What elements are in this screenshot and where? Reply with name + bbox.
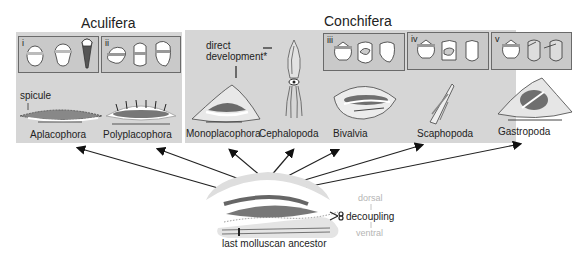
taxon-label-scaphopoda: Scaphopoda	[417, 128, 473, 139]
decoupling-label: decoupling	[346, 211, 394, 222]
larva-icons-stage-iv	[417, 40, 478, 61]
aplacophora-drawing	[20, 103, 102, 122]
taxon-label-cephalopoda: Cephalopoda	[259, 128, 319, 139]
cephalopoda-drawing	[286, 40, 302, 118]
direct-development-line-1: direct	[206, 40, 267, 51]
taxon-label-aplacophora: Aplacophora	[30, 129, 86, 140]
gastropoda-drawing	[498, 78, 572, 120]
ancestor-drawing	[206, 172, 338, 238]
larva-icons-stage-iii	[334, 42, 395, 63]
scissors-icon	[330, 212, 343, 220]
spicule-label: spicule	[20, 90, 51, 101]
polyplacophora-drawing	[106, 100, 176, 124]
dorsal-label: dorsal	[358, 193, 383, 203]
larva-icons-stage-i	[27, 39, 92, 68]
direct-development-line-2: development*	[206, 51, 267, 62]
bivalvia-drawing	[334, 86, 396, 119]
taxon-label-monoplacophora: Monoplacophora	[186, 128, 261, 139]
direct-development-label: direct development*	[206, 40, 267, 62]
larva-icons-stage-v	[502, 40, 562, 61]
taxon-label-bivalvia: Bivalvia	[333, 128, 367, 139]
taxon-label-gastropoda: Gastropoda	[498, 126, 550, 137]
taxon-label-polyplacophora: Polyplacophora	[103, 129, 172, 140]
ancestor-label: last molluscan ancestor	[222, 238, 327, 249]
ventral-label: ventral	[356, 228, 383, 238]
scaphopoda-drawing	[430, 84, 454, 124]
larva-icons-stage-ii	[107, 41, 171, 66]
